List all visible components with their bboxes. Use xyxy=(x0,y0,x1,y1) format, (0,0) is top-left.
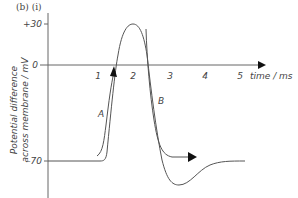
y-axis-title: Potential difference across membrane / m… xyxy=(9,57,30,163)
figure-label: (b) (i) xyxy=(16,2,42,12)
y-axis-title-line1: Potential difference xyxy=(9,65,19,154)
x-tick-label-1: 1 xyxy=(95,71,101,81)
x-tick-label-5: 5 xyxy=(237,71,243,81)
arrow-b-head-icon xyxy=(188,152,197,162)
arrow-a-label: A xyxy=(97,109,104,119)
arrow-b-line xyxy=(146,29,190,157)
y-tick-label-plus30: +30 xyxy=(23,19,42,29)
arrow-b-label: B xyxy=(158,96,164,106)
x-tick-label-4: 4 xyxy=(202,71,208,81)
y-tick-label-zero: 0 xyxy=(32,60,38,70)
x-tick-label-2: 2 xyxy=(130,71,136,81)
action-potential-chart: (b) (i) +30 0 -70 1 2 3 4 5 time / ms Po… xyxy=(0,0,298,198)
x-tick-label-3: 3 xyxy=(167,71,173,81)
x-axis-title: time / ms xyxy=(250,71,293,81)
x-axis-arrowhead-icon xyxy=(258,61,266,69)
y-axis-title-line2: across membrane / mV xyxy=(20,57,30,163)
